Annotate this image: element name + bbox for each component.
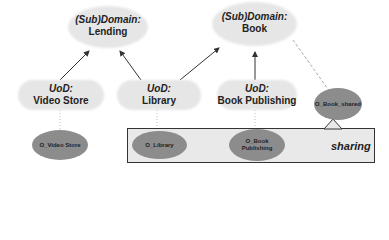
ontology-book-shared: O_Book_shared (314, 88, 362, 120)
ontology-bookpublishing: O_Book Publishing (229, 129, 285, 161)
ontology-videostore: O_Video Store (32, 130, 88, 160)
ontology-library: O_Library (132, 131, 187, 159)
